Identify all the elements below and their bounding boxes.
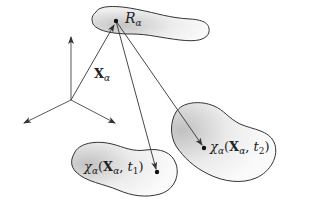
point-t1 bbox=[155, 170, 159, 174]
point-t2 bbox=[202, 146, 206, 150]
paren-close: ) bbox=[264, 139, 269, 154]
region-t1-label: χα(Xα, t1) bbox=[84, 160, 144, 178]
label-R-sub: α bbox=[136, 18, 142, 28]
region-t2-label: χα(Xα, t2) bbox=[210, 140, 270, 158]
label-arg: X bbox=[229, 139, 239, 154]
diagram-svg bbox=[0, 0, 312, 207]
label-X-sub: α bbox=[104, 73, 110, 83]
paren-close: ) bbox=[138, 159, 143, 174]
label-R: R bbox=[125, 10, 136, 26]
reference-point bbox=[114, 19, 118, 23]
label-arg: X bbox=[103, 159, 113, 174]
label-X: X bbox=[94, 66, 104, 81]
position-vector-label: Xα bbox=[94, 67, 110, 85]
position-vector-arrow bbox=[71, 25, 114, 100]
diagram-canvas: Rα Xα χα(Xα, t1) χα(Xα, t2) bbox=[0, 0, 312, 207]
label-chi: χ bbox=[84, 159, 92, 174]
label-chi: χ bbox=[210, 139, 218, 154]
reference-region bbox=[92, 7, 209, 41]
reference-region-label: Rα bbox=[125, 12, 142, 30]
